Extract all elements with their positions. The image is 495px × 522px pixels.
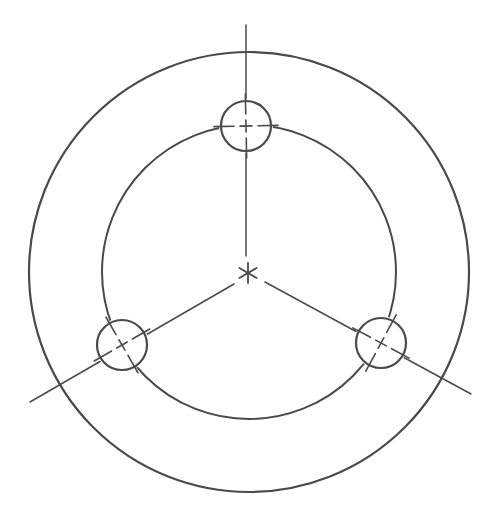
bolt-circle-diagram: [0, 0, 495, 522]
drawing-canvas: [0, 0, 495, 522]
